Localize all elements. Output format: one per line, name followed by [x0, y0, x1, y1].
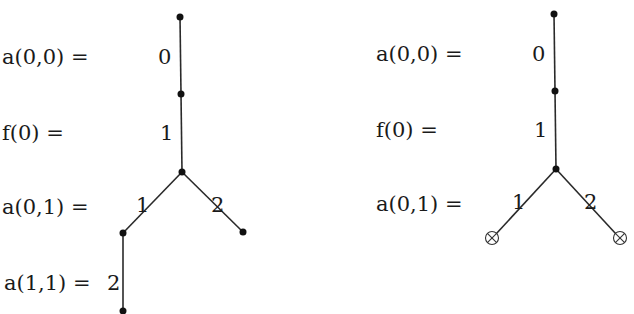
right-tree: a(0,0) = f(0) = a(0,1) = 0 1 1 2 — [376, 11, 627, 245]
edge-right-branch-1 — [496, 169, 556, 234]
node-dot — [120, 230, 127, 237]
row-label: f(0) = — [2, 121, 64, 145]
edge-label: 0 — [158, 45, 171, 69]
node-dot — [552, 88, 559, 95]
left-tree: a(0,0) = f(0) = a(0,1) = a(1,1) = 0 1 1 … — [2, 14, 247, 314]
row-label: a(0,1) = — [2, 195, 89, 219]
tree-diagram: a(0,0) = f(0) = a(0,1) = a(1,1) = 0 1 1 … — [0, 0, 634, 314]
edge-left-1 — [181, 94, 182, 172]
node-dot — [553, 166, 560, 173]
node-dot — [551, 11, 558, 18]
edge-label: 2 — [211, 193, 224, 217]
edge-label: 1 — [512, 190, 525, 214]
edge-label: 2 — [584, 190, 597, 214]
edge-label: 1 — [160, 121, 173, 145]
row-label: f(0) = — [376, 118, 438, 142]
row-label: a(0,0) = — [376, 42, 463, 66]
edge-left-branch-1 — [123, 172, 182, 233]
row-label: a(1,1) = — [4, 271, 91, 295]
edge-right-1 — [555, 91, 556, 169]
node-dot — [178, 91, 185, 98]
node-dot — [177, 14, 184, 21]
otimes-leaf-icon — [486, 232, 499, 245]
otimes-leaf-icon — [614, 232, 627, 245]
edge-left-0 — [180, 17, 181, 94]
node-dot — [179, 169, 186, 176]
edge-label: 1 — [136, 193, 149, 217]
node-dot — [240, 229, 247, 236]
edge-label: 1 — [534, 118, 547, 142]
row-label: a(0,0) = — [2, 45, 89, 69]
edge-right-0 — [554, 14, 555, 91]
edge-label: 2 — [107, 271, 120, 295]
node-dot — [120, 308, 127, 314]
edge-label: 0 — [532, 42, 545, 66]
row-label: a(0,1) = — [376, 192, 463, 216]
